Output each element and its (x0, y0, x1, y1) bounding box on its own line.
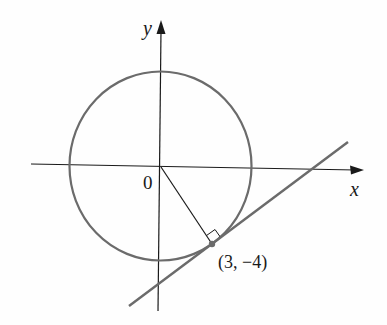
y-axis-arrow-icon (157, 20, 166, 34)
x-axis-arrow-icon (350, 166, 364, 175)
point-label: (3, −4) (218, 252, 267, 273)
x-axis-label: x (349, 178, 359, 200)
right-angle-marker (207, 230, 222, 239)
origin-label: 0 (143, 172, 153, 193)
diagram-canvas: y x 0 (3, −4) (0, 0, 387, 325)
y-axis-label: y (141, 17, 152, 40)
radius-segment (161, 167, 212, 244)
x-axis (31, 164, 356, 170)
diagram-svg: y x 0 (3, −4) (0, 0, 387, 325)
tangent-point (209, 241, 215, 247)
